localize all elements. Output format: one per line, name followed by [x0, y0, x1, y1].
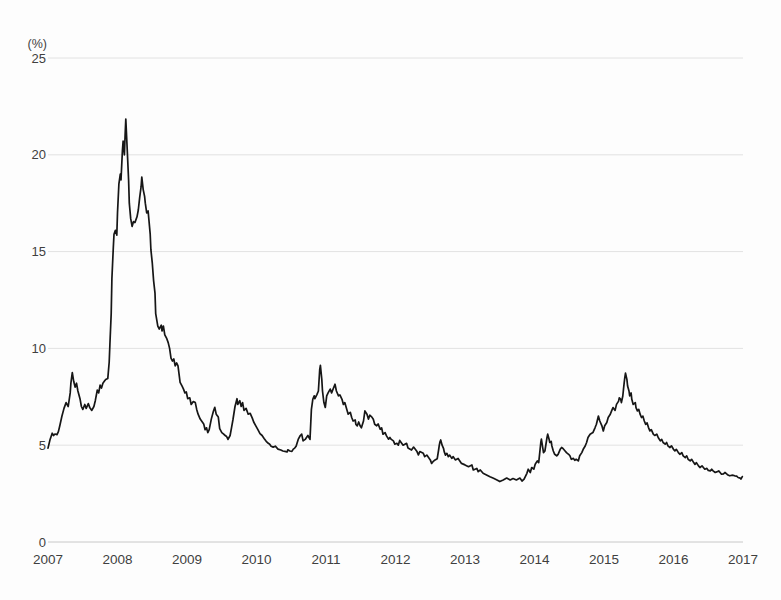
x-axis-tick-label: 2009: [172, 552, 202, 567]
x-axis-tick-label: 2011: [311, 552, 340, 567]
axis-tick-label-layer: 0510152025200720082009201020112012201320…: [32, 51, 758, 568]
x-axis-tick-label: 2012: [380, 552, 410, 567]
x-axis-tick-label: 2017: [728, 552, 758, 567]
y-axis-tick-label: 25: [32, 51, 46, 66]
series-line-rate-percent: [48, 119, 742, 482]
line-chart: 0510152025200720082009201020112012201320…: [0, 0, 781, 600]
y-axis-tick-label: 10: [32, 341, 46, 356]
x-axis-tick-label: 2007: [33, 552, 63, 567]
x-axis-tick-label: 2014: [519, 552, 550, 567]
chart-root: 0510152025200720082009201020112012201320…: [0, 0, 781, 600]
y-axis-tick-label: 0: [39, 535, 46, 550]
x-axis-tick-label: 2016: [658, 552, 688, 567]
x-axis-tick-label: 2015: [589, 552, 619, 567]
y-axis-tick-label: 5: [39, 438, 46, 453]
y-axis-unit-label: (%): [28, 37, 47, 51]
data-series-layer: [48, 119, 742, 482]
y-axis-tick-label: 15: [32, 244, 46, 259]
x-axis-tick-label: 2010: [241, 552, 271, 567]
y-axis-tick-label: 20: [32, 147, 46, 162]
gridline-layer: [48, 58, 743, 542]
x-axis-tick-label: 2013: [450, 552, 480, 567]
x-axis-tick-label: 2008: [102, 552, 132, 567]
